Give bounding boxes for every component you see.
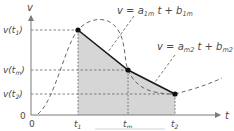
- origin-x-label: 0: [29, 119, 35, 129]
- velocity-time-diagram: v t 0 0 v(t1) v(tm) v(t2) t1 tm t2 v = a…: [0, 0, 234, 131]
- point-tm: [125, 67, 130, 72]
- point-t2: [172, 91, 177, 96]
- point-t1: [75, 27, 80, 32]
- equation-segment-m2: v = am2 t + bm2: [157, 41, 233, 54]
- x-tick-t2: t2: [171, 119, 179, 130]
- y-tick-v-t1: v(t1): [3, 25, 23, 36]
- caption-faded: [95, 128, 165, 130]
- x-axis-label: t: [225, 110, 230, 121]
- x-tick-t1: t1: [74, 119, 81, 130]
- y-tick-v-t2: v(t2): [3, 89, 23, 100]
- y-tick-v-tm: v(tm): [3, 65, 25, 76]
- y-axis-label: v: [27, 2, 34, 13]
- origin-y-label: 0: [20, 111, 26, 121]
- equation-segment-1m: v = a1m t + b1m: [117, 5, 193, 18]
